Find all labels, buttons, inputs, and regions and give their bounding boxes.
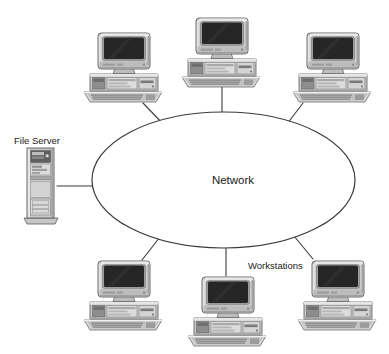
workstation-bottom-left[interactable] [84,261,162,330]
workstation-bottom-right[interactable] [298,261,376,330]
network-cloud-label: Network [212,174,254,186]
workstation-top-right[interactable] [293,33,371,102]
workstation-top-center[interactable] [182,18,260,87]
file-server-label: File Server [14,135,60,146]
link-workstation-bottom-left [142,237,160,260]
network-diagram: Network File Server Workstations [0,0,389,354]
link-workstation-bottom-right [294,236,313,259]
network-cloud[interactable]: Network [92,112,355,248]
file-server-node[interactable] [24,148,58,224]
workstation-bottom-center[interactable] [188,277,266,346]
network-diagram-canvas: Network File Server Workstations [0,0,389,354]
workstation-top-left[interactable] [84,33,162,102]
workstations-label: Workstations [248,260,303,271]
